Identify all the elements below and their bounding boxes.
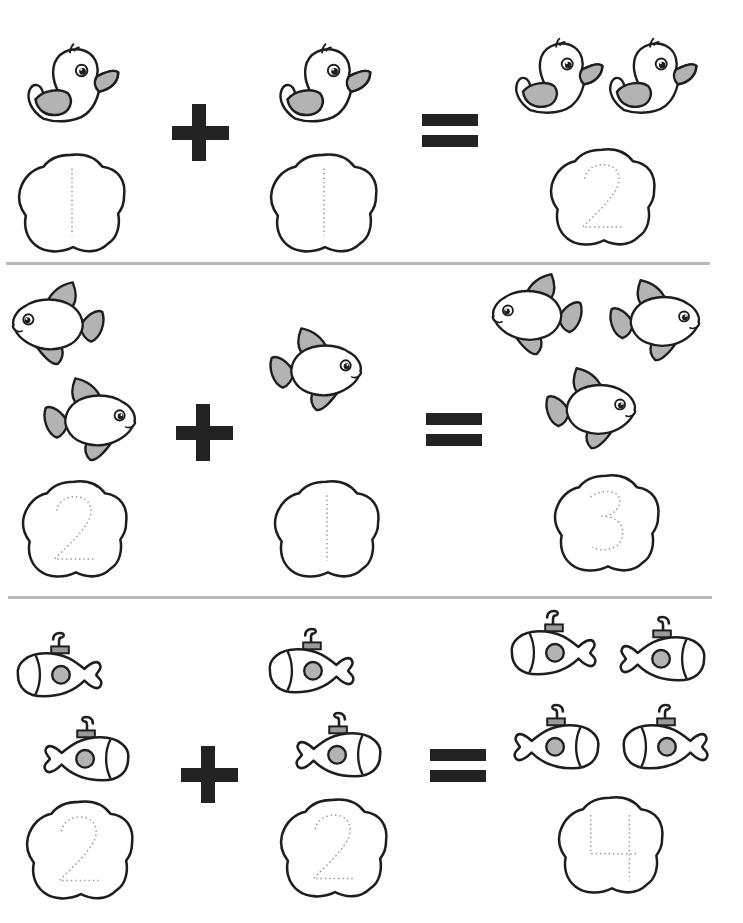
trace-digit: 2 bbox=[548, 250, 549, 251]
answer-badge-sum[interactable]: 3 bbox=[552, 470, 662, 576]
duck-icon bbox=[22, 34, 122, 132]
submarine-icon bbox=[508, 608, 600, 680]
answer-badge-addend1[interactable]: 1 bbox=[16, 150, 128, 256]
section-divider bbox=[8, 596, 712, 599]
submarine-icon bbox=[14, 630, 106, 702]
equals-icon: = bbox=[430, 749, 486, 782]
answer-badge-sum[interactable]: 4 bbox=[556, 792, 666, 898]
submarine-icon bbox=[620, 702, 712, 774]
answer-badge-addend1[interactable]: 2 bbox=[24, 796, 136, 904]
trace-digit: 4 bbox=[556, 898, 557, 899]
trace-digit: 2 bbox=[278, 902, 279, 903]
plus-icon: + bbox=[181, 746, 238, 803]
submarine-icon bbox=[266, 626, 358, 698]
duck-icon bbox=[604, 28, 700, 124]
submarine-icon bbox=[294, 710, 386, 782]
equals-icon: = bbox=[422, 114, 478, 147]
submarine-icon bbox=[42, 714, 134, 786]
submarine-icon bbox=[512, 702, 604, 774]
equation-text: 1 + 1 = 2 bbox=[0, 0, 1, 1]
duck-icon bbox=[510, 28, 606, 124]
answer-badge-addend2[interactable]: 2 bbox=[278, 794, 390, 902]
fish-icon bbox=[8, 278, 106, 370]
trace-digit: 1 bbox=[268, 256, 269, 257]
answer-badge-addend2[interactable]: 1 bbox=[268, 150, 380, 256]
fish-icon bbox=[544, 364, 640, 454]
trace-digit: 2 bbox=[24, 904, 25, 905]
trace-digit: 3 bbox=[552, 576, 553, 577]
trace-digit: 1 bbox=[272, 582, 273, 583]
submarine-icon bbox=[618, 614, 710, 686]
fish-icon bbox=[488, 270, 584, 360]
duck-icon bbox=[274, 34, 374, 132]
equation-text: 2 + 2 = 4 bbox=[0, 0, 1, 1]
answer-badge-sum[interactable]: 2 bbox=[548, 144, 658, 250]
section-divider bbox=[6, 262, 710, 265]
plus-icon: + bbox=[176, 404, 233, 461]
equation-text: 2 + 1 = 3 bbox=[0, 0, 1, 1]
fish-icon bbox=[42, 374, 140, 466]
equals-icon: = bbox=[426, 413, 482, 446]
answer-badge-addend1[interactable]: 2 bbox=[20, 476, 130, 582]
fish-icon bbox=[608, 276, 704, 366]
answer-badge-addend2[interactable]: 1 bbox=[272, 476, 382, 582]
trace-digit: 2 bbox=[20, 582, 21, 583]
fish-icon bbox=[268, 324, 366, 416]
trace-digit: 1 bbox=[16, 256, 17, 257]
plus-icon: + bbox=[172, 104, 229, 161]
